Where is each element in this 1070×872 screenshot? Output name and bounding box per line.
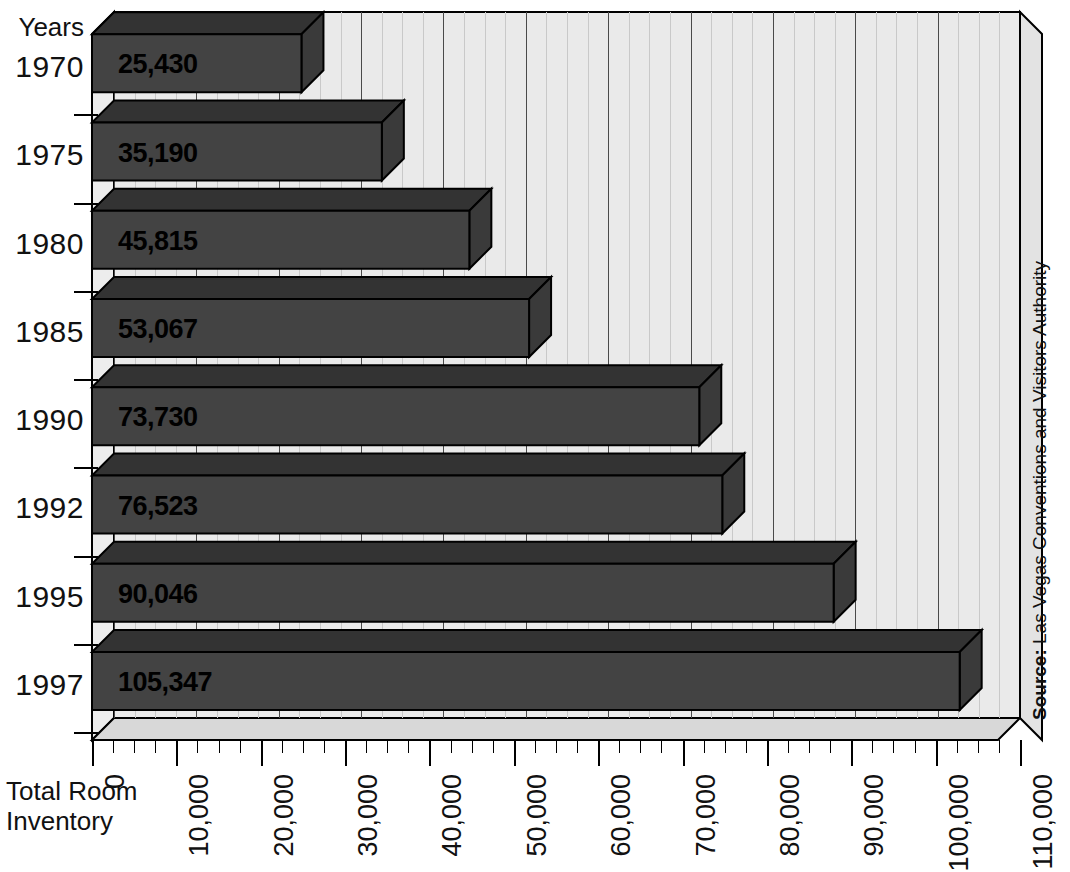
y-axis-tick <box>74 114 98 116</box>
x-axis-tick-label: 70,000 <box>693 774 720 857</box>
bar-value-label: 76,523 <box>118 491 198 522</box>
x-axis-tick-label: 10,000 <box>186 774 213 857</box>
x-axis-tick-minor <box>324 740 325 753</box>
y-axis-tick <box>74 556 98 558</box>
x-axis-tick-minor <box>577 740 578 753</box>
bar-top-face <box>92 189 491 211</box>
y-axis-tick-label: 1997 <box>0 670 84 700</box>
x-axis-tick-label: 30,000 <box>355 774 382 857</box>
x-axis-tick-minor <box>556 740 557 753</box>
x-axis-tick-label: 100,000 <box>946 774 973 872</box>
x-axis-tick-major <box>851 740 853 766</box>
x-axis-tick-minor <box>219 740 220 753</box>
y-axis-tick-label: 1975 <box>0 140 84 170</box>
y-axis-tick-label: 1995 <box>0 582 84 612</box>
x-axis-tick-minor <box>957 740 958 753</box>
bar-front-face <box>92 564 834 622</box>
y-axis-tick <box>74 644 98 646</box>
x-axis-tick-minor <box>725 740 726 753</box>
x-axis-tick-minor <box>915 740 916 753</box>
x-axis-tick-minor <box>893 740 894 753</box>
x-axis-tick-major <box>429 740 431 766</box>
x-axis-title: Total Room Inventory <box>6 776 166 836</box>
x-axis-tick-minor <box>704 740 705 753</box>
x-axis-tick-major <box>345 740 347 766</box>
bar-series: 25,43035,19045,81553,06773,73076,52390,0… <box>0 0 1070 760</box>
x-axis-tick-minor <box>472 740 473 753</box>
x-axis-tick-label: 20,000 <box>271 774 298 857</box>
plot-area: 25,43035,19045,81553,06773,73076,52390,0… <box>0 0 1070 760</box>
x-axis-tick-minor <box>366 740 367 753</box>
x-axis-tick-label: 0 <box>102 774 129 789</box>
x-axis-tick-minor <box>408 740 409 753</box>
y-axis-tick-label: 1985 <box>0 317 84 347</box>
bar-top-face <box>92 101 404 123</box>
y-axis-tick <box>74 467 98 469</box>
y-axis-tick-label: 1992 <box>0 493 84 523</box>
x-axis-tick-minor <box>451 740 452 753</box>
x-axis-tick-minor <box>661 740 662 753</box>
x-axis-tick-major <box>767 740 769 766</box>
x-axis-tick-major <box>514 740 516 766</box>
x-axis-tick-label: 80,000 <box>777 774 804 857</box>
x-axis-tick-minor <box>999 740 1000 753</box>
bar-top-face <box>92 542 856 564</box>
x-axis-tick-minor <box>978 740 979 753</box>
y-axis-tick-label: 1970 <box>0 52 84 82</box>
x-axis-tick-label: 90,000 <box>861 774 888 857</box>
source-prefix: Source: <box>1029 649 1050 720</box>
bar-value-label: 53,067 <box>118 314 198 345</box>
bar-top-face <box>92 454 744 476</box>
x-axis-tick-label: 50,000 <box>524 774 551 857</box>
x-axis-tick-minor <box>746 740 747 753</box>
x-axis-tick-minor <box>387 740 388 753</box>
x-axis-tick-minor <box>809 740 810 753</box>
bar-value-label: 90,046 <box>118 579 198 610</box>
bar-value-label: 73,730 <box>118 402 198 433</box>
x-axis-tick-minor <box>619 740 620 753</box>
bar-value-label: 35,190 <box>118 138 198 169</box>
x-axis-tick-minor <box>197 740 198 753</box>
y-axis-tick <box>74 379 98 381</box>
x-axis-tick-minor <box>155 740 156 753</box>
bar-top-face <box>92 365 721 387</box>
x-axis-title-line2: Inventory <box>6 806 113 836</box>
x-axis-tick-major <box>1020 740 1022 766</box>
x-axis-tick-minor <box>134 740 135 753</box>
x-axis-tick-major <box>936 740 938 766</box>
x-axis-tick-minor <box>113 740 114 753</box>
x-axis-tick-major <box>176 740 178 766</box>
bar-value-label: 105,347 <box>118 667 212 698</box>
x-axis-tick-minor <box>535 740 536 753</box>
bar <box>92 630 982 710</box>
x-axis-tick-minor <box>493 740 494 753</box>
y-axis-tick <box>74 291 98 293</box>
x-axis-tick-label: 110,000 <box>1030 774 1057 870</box>
x-axis-tick-minor <box>303 740 304 753</box>
x-axis-tick-minor <box>240 740 241 753</box>
source-text: Las Vegas Conventions and Visitors Autho… <box>1029 261 1050 649</box>
bar-top-face <box>92 277 551 299</box>
x-axis-tick-major <box>92 740 94 766</box>
x-axis-tick-major <box>261 740 263 766</box>
x-axis-tick-minor <box>830 740 831 753</box>
x-axis-tick-label: 60,000 <box>608 774 635 857</box>
source-note: Source: Las Vegas Conventions and Visito… <box>1030 261 1049 720</box>
bar-top-face <box>92 12 323 34</box>
x-axis: Total Room Inventory 010,00020,00030,000… <box>0 718 1070 858</box>
x-axis-tick-minor <box>788 740 789 753</box>
bar <box>92 542 856 622</box>
x-axis-tick-major <box>683 740 685 766</box>
x-axis-tick-label: 40,000 <box>439 774 466 857</box>
y-axis-tick-label: 1990 <box>0 405 84 435</box>
y-axis-tick-label: 1980 <box>0 229 84 259</box>
y-axis-tick <box>74 203 98 205</box>
bar-front-face <box>92 652 960 710</box>
bar-top-face <box>92 630 982 652</box>
bar-value-label: 45,815 <box>118 226 198 257</box>
bar-value-label: 25,430 <box>118 49 198 80</box>
y-axis-title: Years <box>0 14 84 40</box>
bars-svg <box>0 0 1070 760</box>
x-axis-tick-minor <box>872 740 873 753</box>
